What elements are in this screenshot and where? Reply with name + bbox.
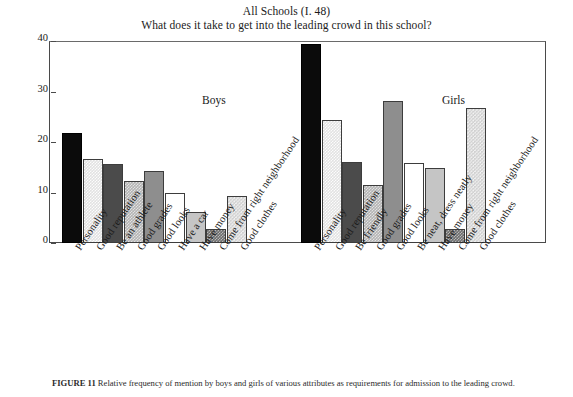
page-title: All Schools (I. 48) (0, 4, 573, 18)
y-tick: 20 (0, 142, 56, 143)
y-tick-mark (51, 41, 56, 42)
bar (62, 133, 82, 243)
chart-subtitle: What does it take to get into the leadin… (0, 18, 573, 32)
figure-caption-label: FIGURE 11 (52, 378, 96, 388)
chart-title-block: All Schools (I. 48) What does it take to… (0, 4, 573, 33)
y-tick: 30 (0, 92, 56, 93)
y-tick-mark (51, 142, 56, 143)
y-tick-label: 0 (43, 235, 48, 246)
panel-title-girls: Girls (442, 94, 465, 106)
y-tick-label: 30 (38, 84, 49, 95)
y-tick-mark (51, 193, 56, 194)
figure-caption-text: Relative frequency of mention by boys an… (98, 378, 515, 388)
bar (301, 44, 321, 243)
y-tick: 40 (0, 41, 56, 42)
y-tick-label: 40 (38, 33, 49, 44)
y-tick-mark (51, 243, 56, 244)
y-tick: 10 (0, 193, 56, 194)
y-tick-mark (51, 92, 56, 93)
y-tick-label: 20 (38, 134, 49, 145)
y-tick-label: 10 (38, 185, 49, 196)
panel-title-boys: Boys (202, 94, 226, 106)
y-tick: 0 (0, 243, 56, 244)
figure-caption: FIGURE 11 Relative frequency of mention … (52, 378, 522, 389)
